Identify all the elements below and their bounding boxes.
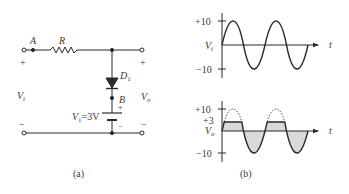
figure-canvas: A R + + D1 Vi Vo B + − V1=3V − − (a) +10… [0,0,349,194]
input-voltage-label: Vi [17,90,25,103]
chart-input-waveform: +10 Vi −10 t [195,13,332,78]
resistor-r [50,47,77,53]
caption-b: (b) [240,168,252,180]
caption-a: (a) [73,168,84,180]
output-terminal-top [140,48,144,52]
tick-label-minus10-top: −10 [196,64,212,75]
tick-label-plus10-bottom: +10 [195,104,211,115]
tick-label-plus10-top: +10 [195,16,211,27]
output-voltage-label: Vo [141,91,151,104]
source-label: V1=3V [72,111,100,124]
chart-output-waveform: +10 +3 Vo −10 t (b) [195,101,332,180]
battery-plus-sign: + [118,103,123,112]
figure: A R + + D1 Vi Vo B + − V1=3V − − (a) +10… [0,0,349,194]
ground-junction-dot [110,131,113,134]
input-terminal-bottom [22,131,26,135]
output-plus-sign: + [140,57,146,68]
vo-positive-shaded-2 [265,122,287,131]
vi-axis-label: Vi [205,40,213,53]
diode-d1-icon [106,78,118,88]
tick-label-minus10-bottom: −10 [196,148,212,159]
input-minus-sign: − [19,119,25,130]
diode-label: D1 [119,70,131,83]
input-plus-sign: + [20,57,26,68]
resistor-label: R [58,35,65,46]
output-minus-sign: − [141,119,147,130]
input-terminal-top [22,48,26,52]
battery-minus-sign: − [118,122,123,131]
vi-dashed-reference [224,109,285,122]
node-b-dot [110,96,113,99]
vo-axis-label: Vo [205,125,215,138]
node-a-label: A [29,35,37,46]
t-label-top: t [329,39,332,50]
vo-positive-shaded [222,122,244,131]
circuit-labels: A R + + D1 Vi Vo B + − V1=3V − − (a) [17,35,151,180]
t-label-bottom: t [329,125,332,136]
node-a-dot [31,48,34,51]
output-terminal-bottom [140,131,144,135]
